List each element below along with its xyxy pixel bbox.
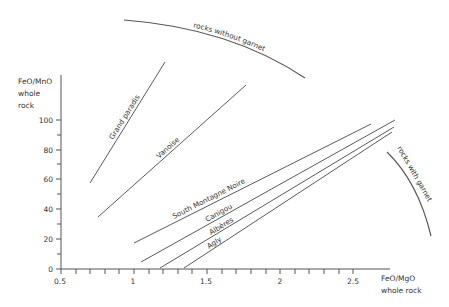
series-grand-paradis [90,62,165,183]
garnet-boundaries: rocks without garnet rocks with garnet [124,20,434,236]
y-tick-label: 0 [48,265,53,274]
y-tick-label: 60 [43,175,53,184]
x-tick-label: 1.5 [200,277,212,286]
x-ticks [61,269,353,274]
y-tick-label: 20 [43,235,53,244]
x-tick-label: 2 [278,277,283,286]
series-lines [90,62,395,268]
y-tick-label: 100 [39,116,54,125]
series-labels: Grand paradis Vanoise South Montagne Noi… [107,93,247,251]
x-tick-label: 0.5 [54,277,66,286]
svg-text:rock: rock [18,101,35,110]
y-ticks [56,120,61,269]
svg-text:whole rock: whole rock [381,286,422,295]
label-grand-paradis: Grand paradis [107,93,142,141]
svg-text:FeO/MnO: FeO/MnO [18,77,52,86]
y-tick-label: 40 [43,205,53,214]
x-tick-label: 1 [131,277,136,286]
x-tick-label: 2.5 [347,277,359,286]
label-rocks-without-garnet: rocks without garnet [193,21,267,54]
y-tick-labels: 0 20 40 60 80 100 [39,116,54,274]
fe-mn-mg-ratio-chart: 0 20 40 60 80 100 0.5 1 1.5 2 2.5 [0,0,449,307]
y-tick-label: 80 [43,146,53,155]
x-axis-title: FeO/MgO whole rock [381,274,422,295]
y-axis-title: FeO/MnO whole rock [18,77,52,110]
svg-text:whole: whole [18,89,41,98]
label-vanoise: Vanoise [154,135,181,161]
axes [61,75,390,269]
series-vanoise [98,85,246,217]
svg-text:FeO/MgO: FeO/MgO [381,274,415,283]
series-alberes [160,127,394,268]
x-tick-labels: 0.5 1 1.5 2 2.5 [54,277,359,286]
label-rocks-with-garnet: rocks with garnet [395,145,434,204]
